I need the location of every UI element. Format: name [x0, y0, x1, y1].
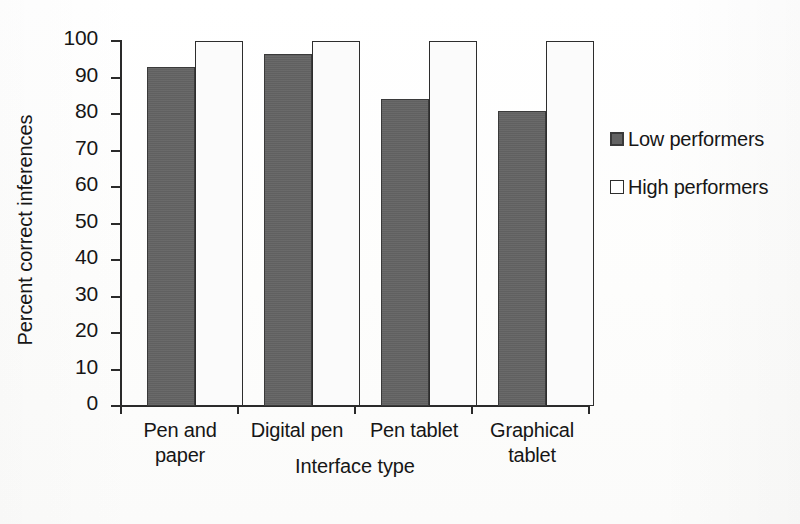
x-axis-title: Interface type	[0, 455, 710, 478]
plot-area: 100 90 80 70 60 50 40 30 20 10 0 Pen and…	[120, 40, 590, 405]
figure-canvas: Percent correct inferences 100 90 80 70 …	[0, 0, 800, 524]
x-tick-group-3	[471, 405, 473, 414]
bar-low-digital-pen	[264, 54, 312, 406]
y-tick-30: 30	[111, 296, 120, 298]
bar-high-graphical-tablet	[546, 41, 594, 406]
bar-low-pen-tablet	[381, 99, 429, 406]
y-tick-90: 90	[111, 77, 120, 79]
legend-item-high-performers: High performers	[610, 176, 800, 198]
legend-swatch-open-square-icon	[610, 180, 624, 194]
y-tick-80: 80	[111, 113, 120, 115]
y-tick-70: 70	[111, 150, 120, 152]
bar-low-graphical-tablet	[498, 111, 546, 406]
legend-label-high-performers: High performers	[628, 176, 768, 198]
legend: Low performers High performers	[610, 128, 800, 224]
y-tick-20: 20	[111, 332, 120, 334]
x-category-line-1: Graphical	[466, 418, 598, 443]
legend-label-low-performers: Low performers	[628, 128, 764, 150]
bar-high-pen-tablet	[429, 41, 477, 406]
y-tick-0: 0	[111, 405, 120, 407]
y-tick-100: 100	[111, 40, 120, 42]
x-category-line-1: Pen tablet	[349, 418, 479, 443]
x-category-line-1: Digital pen	[232, 418, 362, 443]
x-category-label-digital-pen: Digital pen	[232, 418, 362, 443]
x-tick-start	[120, 405, 122, 414]
y-axis-line	[120, 40, 122, 406]
bar-high-digital-pen	[312, 41, 360, 406]
y-axis-title-container: Percent correct inferences	[0, 0, 60, 460]
x-category-label-pen-tablet: Pen tablet	[349, 418, 479, 443]
y-tick-40: 40	[111, 259, 120, 261]
x-tick-end	[588, 405, 590, 414]
x-tick-group-1	[237, 405, 239, 414]
bar-low-pen-and-paper	[147, 67, 195, 406]
x-category-line-1: Pen and	[115, 418, 245, 443]
legend-swatch-filled-square-icon	[610, 132, 624, 146]
y-tick-10: 10	[111, 369, 120, 371]
bar-high-pen-and-paper	[195, 41, 243, 406]
y-tick-60: 60	[111, 186, 120, 188]
x-tick-group-2	[354, 405, 356, 414]
y-tick-50: 50	[111, 223, 120, 225]
legend-item-low-performers: Low performers	[610, 128, 800, 150]
y-axis-title: Percent correct inferences	[14, 60, 37, 400]
